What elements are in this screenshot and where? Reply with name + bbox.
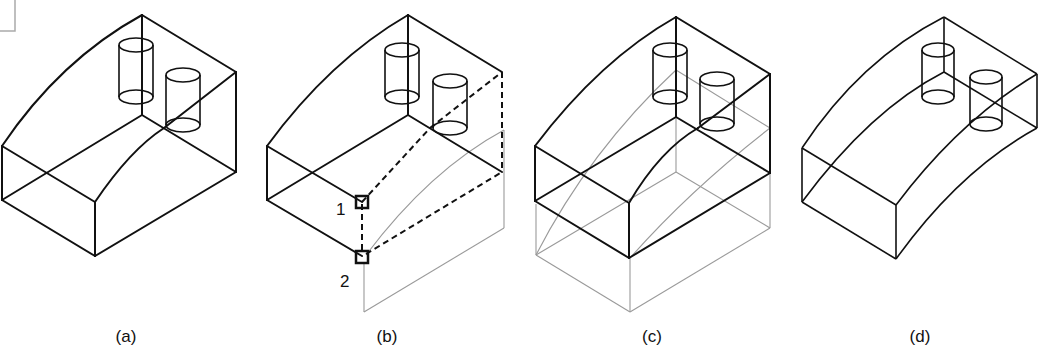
caption-a: (a) (116, 327, 137, 347)
panel-d-drawing (802, 17, 1037, 259)
panel-a-drawing (2, 15, 236, 256)
point-2-label: 2 (340, 272, 349, 292)
point-1-label: 1 (336, 200, 345, 220)
panel-c-drawing (535, 17, 770, 312)
panel-b-drawing (267, 15, 504, 312)
caption-c: (c) (642, 327, 662, 347)
corner-box (0, 0, 15, 31)
caption-d: (d) (910, 327, 931, 347)
caption-b: (b) (377, 327, 398, 347)
figure-canvas (0, 0, 1042, 351)
